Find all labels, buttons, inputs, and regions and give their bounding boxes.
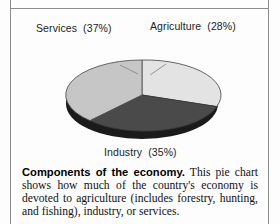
page-rule-right: [268, 0, 269, 224]
pie-label-agriculture-percent: (28%): [207, 20, 236, 32]
pie-chart: [58, 34, 222, 150]
pie-label-services: Services (37%): [36, 22, 112, 34]
pie-label-industry-percent: (35%): [148, 146, 177, 158]
pie-label-agriculture: Agriculture (28%): [150, 20, 236, 32]
pie-label-services-name: Services: [36, 22, 77, 34]
pie-label-industry-name: Industry: [104, 146, 142, 158]
economy-pie-figure: Services (37%) Agriculture (28%) Industr…: [0, 0, 280, 224]
figure-caption: Components of the economy. This pie char…: [22, 166, 258, 219]
pie-label-agriculture-name: Agriculture: [150, 20, 201, 32]
pie-label-industry: Industry (35%): [104, 146, 177, 158]
pie-label-services-percent: (37%): [83, 22, 112, 34]
figure-caption-title: Components of the economy.: [22, 166, 185, 178]
